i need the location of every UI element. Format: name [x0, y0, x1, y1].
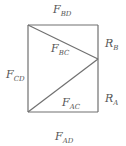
label-f-bd: FBD [52, 3, 72, 18]
svg-text:RA: RA [104, 92, 118, 107]
label-f-ad: FAD [54, 130, 74, 145]
svg-text:FCD: FCD [5, 68, 25, 83]
label-r-a: RA [104, 92, 118, 107]
label-r-b: RB [104, 37, 118, 52]
svg-text:FBD: FBD [52, 3, 72, 18]
svg-text:FAD: FAD [54, 130, 74, 145]
svg-text:RB: RB [104, 37, 118, 52]
truss-diagram: FBD FBC FCD RB FAC RA FAD [0, 0, 126, 146]
svg-text:FAC: FAC [61, 96, 81, 111]
label-f-ac: FAC [61, 96, 81, 111]
label-f-cd: FCD [5, 68, 25, 83]
